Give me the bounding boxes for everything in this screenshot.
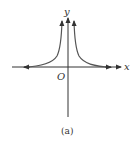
origin-label: O	[57, 71, 65, 82]
x-axis-label: x	[124, 61, 130, 72]
y-axis-label: y	[63, 6, 70, 17]
curve-right-branch	[74, 21, 111, 67]
curve-left-branch	[24, 21, 62, 67]
graph-figure: y x O (a)	[0, 0, 137, 145]
figure-caption: (a)	[61, 126, 73, 136]
